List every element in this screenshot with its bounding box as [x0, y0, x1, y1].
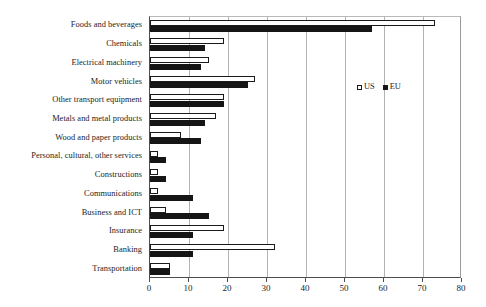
bar-us-11: [150, 225, 224, 231]
bar-us-3: [150, 76, 255, 82]
bar-eu-1: [150, 45, 205, 51]
x-tick: [383, 278, 384, 282]
category-label-11: Insurance: [0, 226, 142, 236]
bar-group: [150, 148, 462, 167]
x-tick: [266, 278, 267, 282]
plot-area: [149, 16, 461, 278]
category-label-2: Electrical machinery: [0, 58, 142, 68]
category-label-13: Transportation: [0, 264, 142, 274]
bar-us-4: [150, 94, 224, 100]
category-label-12: Banking: [0, 245, 142, 255]
bar-group: [150, 92, 462, 111]
bar-eu-3: [150, 82, 248, 88]
bar-eu-0: [150, 26, 372, 32]
x-tick: [149, 278, 150, 282]
bar-us-0: [150, 20, 435, 26]
bar-eu-9: [150, 195, 193, 201]
bar-us-13: [150, 263, 170, 269]
chart-legend: US EU: [357, 82, 401, 92]
horizontal-bar-chart: Foods and beveragesChemicalsElectrical m…: [0, 0, 486, 307]
bar-eu-8: [150, 176, 166, 182]
bar-eu-10: [150, 213, 209, 219]
x-tick-label-8: 80: [441, 283, 481, 294]
category-label-6: Wood and paper products: [0, 133, 142, 143]
bar-group: [150, 185, 462, 204]
bar-eu-6: [150, 138, 201, 144]
bar-eu-5: [150, 120, 205, 126]
category-label-0: Foods and beverages: [0, 20, 142, 30]
x-tick-label-7: 70: [402, 283, 442, 294]
bar-eu-13: [150, 269, 170, 275]
bar-group: [150, 73, 462, 92]
bar-group: [150, 17, 462, 36]
bar-eu-11: [150, 232, 193, 238]
x-tick-label-1: 10: [168, 283, 208, 294]
x-tick: [344, 278, 345, 282]
bar-group: [150, 36, 462, 55]
bar-group: [150, 111, 462, 130]
x-tick: [227, 278, 228, 282]
bar-us-1: [150, 38, 224, 44]
bar-group: [150, 204, 462, 223]
legend-item-us: US: [357, 82, 375, 92]
x-tick-label-6: 60: [363, 283, 403, 294]
bar-group: [150, 223, 462, 242]
x-tick: [188, 278, 189, 282]
bar-eu-7: [150, 157, 166, 163]
x-tick: [461, 278, 462, 282]
bar-group: [150, 260, 462, 279]
category-label-7: Personal, cultural, other services: [0, 151, 142, 161]
bar-us-2: [150, 57, 209, 63]
x-tick-label-5: 50: [324, 283, 364, 294]
category-label-10: Business and ICT: [0, 208, 142, 218]
x-tick-label-3: 30: [246, 283, 286, 294]
legend-label-us: US: [364, 82, 375, 92]
bar-group: [150, 167, 462, 186]
bar-us-5: [150, 113, 216, 119]
bar-us-7: [150, 151, 158, 157]
category-axis-labels: Foods and beveragesChemicalsElectrical m…: [0, 16, 146, 278]
category-label-9: Communications: [0, 189, 142, 199]
category-label-8: Constructions: [0, 170, 142, 180]
x-tick: [305, 278, 306, 282]
category-label-4: Other transport equipment: [0, 95, 142, 105]
bar-group: [150, 129, 462, 148]
bar-eu-4: [150, 101, 224, 107]
legend-item-eu: EU: [383, 82, 401, 92]
bar-us-9: [150, 188, 158, 194]
x-tick-label-0: 0: [129, 283, 169, 294]
filled-square-icon: [383, 85, 388, 90]
chart-plot-wrapper: Foods and beveragesChemicalsElectrical m…: [0, 0, 486, 307]
x-tick-label-4: 40: [285, 283, 325, 294]
bar-us-6: [150, 132, 181, 138]
bar-group: [150, 242, 462, 261]
x-tick: [422, 278, 423, 282]
category-label-1: Chemicals: [0, 39, 142, 49]
category-label-5: Metals and metal products: [0, 114, 142, 124]
bar-eu-2: [150, 64, 201, 70]
bar-us-8: [150, 169, 158, 175]
category-label-3: Motor vehicles: [0, 77, 142, 87]
bar-us-10: [150, 207, 166, 213]
bar-eu-12: [150, 251, 193, 257]
bar-group: [150, 54, 462, 73]
bar-us-12: [150, 244, 275, 250]
x-tick-label-2: 20: [207, 283, 247, 294]
hollow-square-icon: [357, 85, 362, 90]
legend-label-eu: EU: [390, 82, 401, 92]
